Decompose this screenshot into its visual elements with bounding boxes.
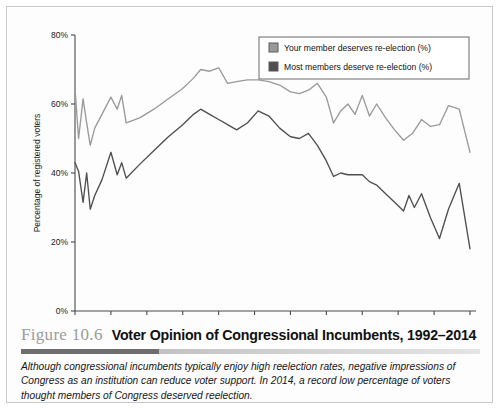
legend-label: Most members deserve re-election (%): [284, 62, 432, 72]
chart-legend: Your member deserves re-election (%)Most…: [259, 37, 469, 79]
y-tick-label: 40%: [51, 168, 68, 178]
figure-title-row: Figure 10.6 Voter Opinion of Congression…: [7, 319, 494, 345]
y-tick-label: 20%: [51, 237, 68, 247]
y-axis-title: Percentage of registered voters: [32, 114, 42, 233]
y-tick-label: 60%: [51, 99, 68, 109]
figure-title: Voter Opinion of Congressional Incumbent…: [112, 327, 477, 343]
legend-swatch: [269, 62, 278, 71]
y-tick-label: 80%: [51, 30, 68, 40]
figure-number: Figure 10.6: [21, 325, 103, 345]
legend-swatch: [269, 43, 278, 52]
line-chart: 0%20%40%60%80% 1992199419961998200020022…: [7, 7, 494, 319]
figure-container: 0%20%40%60%80% 1992199419961998200020022…: [6, 6, 493, 403]
legend-label: Your member deserves re-election (%): [284, 43, 431, 53]
figure-caption-block: Figure 10.6 Voter Opinion of Congression…: [7, 319, 494, 403]
y-tick-label: 0%: [56, 306, 69, 316]
chart-plot-area: 0%20%40%60%80% 1992199419961998200020022…: [7, 7, 494, 319]
x-axis-ticks: 1992199419961998200020022004200620082010…: [66, 311, 480, 319]
series-lines: [75, 68, 470, 249]
title-divider-bar: [21, 349, 480, 354]
figure-caption-text: Although congressional incumbents typica…: [21, 360, 480, 403]
series-line: [75, 109, 470, 249]
series-line: [75, 68, 470, 153]
y-axis-ticks: 0%20%40%60%80%: [51, 30, 75, 316]
